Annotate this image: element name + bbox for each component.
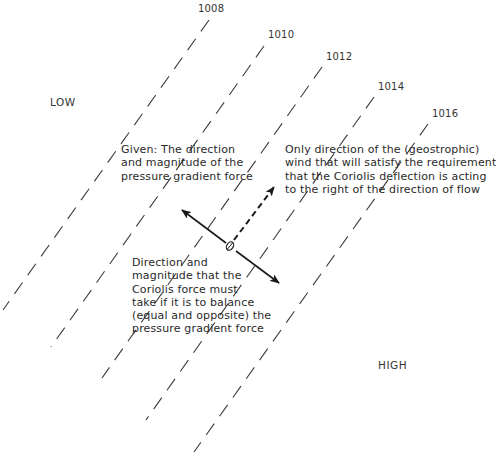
geostrophic-wind-annotation: Only direction of the (geostrophic) wind… [285, 143, 496, 196]
isobar-label-1016: 1016 [432, 108, 458, 119]
coriolis-force-annotation: Direction and magnitude that the Corioli… [132, 256, 271, 336]
high-pressure-label: HIGH [378, 359, 407, 371]
pressure-gradient-force-arrow [182, 210, 226, 243]
isobar-label-1014: 1014 [378, 81, 404, 92]
air-parcel-icon [225, 240, 235, 251]
isobar-label-1008: 1008 [198, 3, 224, 14]
isobar-label-1012: 1012 [326, 51, 352, 62]
isobar-label-1010: 1010 [268, 29, 294, 40]
low-pressure-label: LOW [50, 96, 76, 108]
geostrophic-wind-arrow [234, 187, 274, 240]
pressure-gradient-annotation: Given: The direction and magnitude of th… [121, 143, 253, 183]
